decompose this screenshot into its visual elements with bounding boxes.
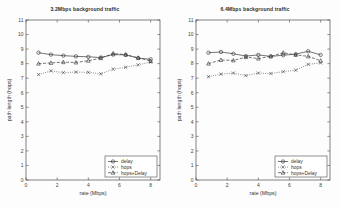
x-axis-label: rate (Mbps) — [79, 190, 106, 196]
y-tick-label: 3 — [21, 133, 24, 139]
series-marker-hops — [87, 71, 90, 74]
series-line-hops-delay — [208, 53, 320, 64]
series-marker-delay — [319, 53, 322, 56]
y-tick-label: 7 — [191, 75, 194, 81]
series-line-delay — [38, 53, 150, 60]
y-tick-label: 8 — [191, 60, 194, 66]
legend-label: hops+Delay — [291, 171, 318, 176]
series-line-hops — [38, 62, 150, 74]
y-tick-label: 8 — [21, 60, 24, 66]
x-tick-label: 8 — [149, 182, 152, 188]
series-marker-hops — [269, 72, 272, 75]
y-tick-label: 4 — [21, 119, 24, 125]
series-marker-hops — [294, 69, 297, 72]
y-tick-label: 7 — [21, 75, 24, 81]
series-marker-hops — [207, 75, 210, 78]
y-tick-label: 9 — [191, 46, 194, 52]
series-marker-hops — [232, 71, 235, 74]
x-axis-label: rate (Mbps) — [249, 190, 276, 196]
series-marker-hops — [99, 72, 102, 75]
x-tick-label: 0 — [195, 182, 198, 188]
y-tick-label: 9 — [21, 46, 24, 52]
x-tick-label: 4 — [257, 182, 260, 188]
y-tick-label: 1 — [191, 162, 194, 168]
y-axis-label: path length (hops) — [6, 78, 12, 121]
y-tick-label: 6 — [21, 90, 24, 96]
y-tick-label: 11 — [18, 17, 23, 23]
chart-panel-left: 3.2Mbps background traffic 0123456789101… — [0, 0, 170, 208]
y-tick-label: 2 — [191, 148, 194, 154]
legend-label: delay — [121, 159, 133, 164]
x-tick-label: 0 — [25, 182, 28, 188]
chart-panel-right: 6.4Mbps background traffic 0123456789101… — [170, 0, 340, 208]
legend-label: hops+Delay — [121, 171, 148, 176]
y-tick-label: 5 — [21, 104, 24, 110]
y-tick-label: 11 — [188, 17, 193, 23]
y-tick-label: 2 — [21, 148, 24, 154]
series-marker-hops-delay — [319, 59, 323, 63]
series-marker-hops — [257, 71, 260, 74]
series-marker-hops — [62, 71, 65, 74]
x-tick-label: 4 — [87, 182, 90, 188]
plot-area-right: 0123456789101102468rate (Mbps)path lengt… — [170, 0, 340, 208]
series-marker-hops — [282, 70, 285, 73]
y-tick-label: 0 — [191, 177, 194, 183]
legend-label: hops — [291, 165, 302, 170]
series-marker-hops — [137, 63, 140, 66]
y-axis-label: path length (hops) — [176, 78, 182, 121]
x-tick-label: 8 — [319, 182, 322, 188]
series-marker-hops — [37, 73, 40, 76]
x-tick-label: 6 — [118, 182, 121, 188]
series-line-hops — [208, 63, 320, 77]
y-tick-label: 1 — [21, 162, 24, 168]
y-tick-label: 6 — [191, 90, 194, 96]
y-tick-label: 10 — [18, 31, 24, 37]
legend-label: delay — [291, 159, 303, 164]
x-tick-label: 2 — [56, 182, 59, 188]
figure-two-panel-line-charts: 3.2Mbps background traffic 0123456789101… — [0, 0, 340, 208]
plot-area-left: 0123456789101102468rate (Mbps)path lengt… — [0, 0, 170, 208]
x-tick-label: 2 — [226, 182, 229, 188]
y-tick-label: 0 — [21, 177, 24, 183]
y-tick-label: 3 — [191, 133, 194, 139]
y-tick-label: 4 — [191, 119, 194, 125]
y-tick-label: 5 — [191, 104, 194, 110]
series-marker-hops — [307, 63, 310, 66]
x-tick-label: 6 — [288, 182, 291, 188]
y-tick-label: 10 — [188, 31, 194, 37]
legend-label: hops — [121, 165, 132, 170]
series-marker-hops — [112, 68, 115, 71]
